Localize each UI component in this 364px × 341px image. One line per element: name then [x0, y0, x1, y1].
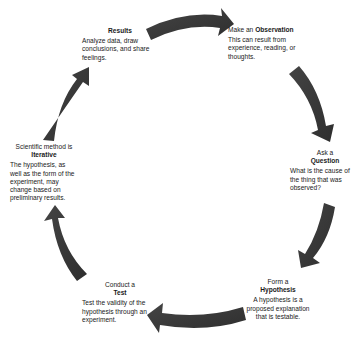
- arrow-hypothesis-to-test: [147, 303, 246, 333]
- arrow-observation-to-question: [289, 66, 334, 142]
- step-iterative: Scientific method is Iterative The hypot…: [10, 143, 78, 202]
- step-observation-description: This can result from experience, reading…: [228, 36, 302, 61]
- step-results: Results Analyze data, draw conclusions, …: [82, 27, 158, 62]
- step-hypothesis-title: Hypothesis: [245, 286, 311, 294]
- step-results-title: Results: [82, 27, 158, 35]
- arrow-results-to-observation: [146, 8, 234, 40]
- step-question-prefix: Ask a: [290, 149, 360, 157]
- step-test-prefix: Conduct a: [82, 281, 158, 289]
- step-results-description: Analyze data, draw conclusions, and shar…: [82, 37, 158, 62]
- step-hypothesis: Form a Hypothesis A hypothesis is a prop…: [245, 278, 311, 321]
- step-observation: Make an Observation This can result from…: [228, 26, 302, 61]
- arrow-test-to-iterative: [44, 205, 87, 281]
- step-test: Conduct a Test Test the validity of the …: [82, 281, 158, 324]
- step-hypothesis-description: A hypothesis is a proposed explanation t…: [245, 296, 311, 321]
- step-observation-prefix: Make an: [228, 26, 253, 33]
- step-test-description: Test the validity of the hypothesis thro…: [82, 299, 158, 324]
- step-test-title: Test: [82, 289, 158, 297]
- step-observation-title: Observation: [255, 26, 293, 33]
- step-question-title: Question: [290, 157, 360, 165]
- step-iterative-title: Iterative: [10, 151, 78, 159]
- step-question-description: What is the cause of the thing that was …: [290, 167, 360, 192]
- step-iterative-prefix: Scientific method is: [10, 143, 78, 151]
- arrow-iterative-to-results: [43, 67, 89, 141]
- arrow-question-to-hypothesis: [298, 203, 335, 268]
- step-question: Ask a Question What is the cause of the …: [290, 149, 360, 192]
- step-hypothesis-prefix: Form a: [245, 278, 311, 286]
- step-iterative-description: The hypothesis, as well as the form of t…: [10, 161, 78, 202]
